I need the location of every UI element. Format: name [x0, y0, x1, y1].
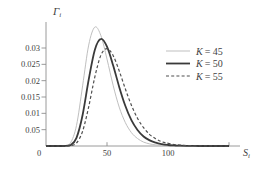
legend-label: K= 45: [195, 46, 223, 57]
y-tick-label: 0.02: [25, 76, 40, 86]
chart-canvas: 0.030.0250.020.0150.010.05 50100 0 Γi Si…: [0, 0, 262, 172]
gamma-subscript: i: [59, 11, 61, 19]
y-axis-title: Γi: [52, 5, 61, 19]
x-tick-label: 100: [162, 148, 175, 158]
y-tick-label: 0.025: [21, 59, 40, 69]
x-axis-title: Si: [243, 147, 250, 160]
legend-label: K= 50: [195, 58, 223, 69]
y-tick-label: 0.01: [25, 108, 40, 118]
y-tick-label: 0.015: [21, 92, 40, 102]
y-tick-label: 0.05: [25, 125, 40, 135]
origin-tick-label: 0: [37, 148, 41, 158]
s-subscript: i: [248, 152, 250, 160]
x-tick-label: 50: [103, 148, 112, 158]
legend: K= 45K= 50K= 55: [166, 46, 223, 82]
y-axis-ticks: 0.030.0250.020.0150.010.05: [21, 43, 46, 135]
y-tick-label: 0.03: [25, 43, 40, 53]
legend-label: K= 55: [195, 71, 223, 82]
gamma-vs-price-chart: 0.030.0250.020.0150.010.05 50100 0 Γi Si…: [0, 0, 262, 172]
